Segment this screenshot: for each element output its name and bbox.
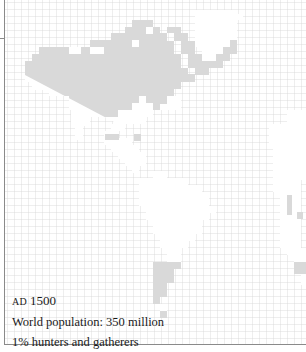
africa-shaded-cell xyxy=(294,262,306,274)
africa-shaded-cell xyxy=(287,195,292,215)
africa-shaded-cell xyxy=(297,212,303,219)
inland-gap xyxy=(146,27,153,34)
legend-era: AD xyxy=(12,296,27,307)
legend-population: World population: 350 million xyxy=(12,312,164,332)
caribbean-shaded-cell xyxy=(105,134,119,140)
map-legend: AD 1500 World population: 350 million 1%… xyxy=(12,291,164,352)
legend-hunter-gatherer-share: 1% hunters and gatherers xyxy=(12,332,164,352)
legend-year: 1500 xyxy=(30,293,56,308)
caribbean-shaded-cell xyxy=(134,134,141,141)
hudson-bay-gap xyxy=(69,47,81,54)
inland-gap xyxy=(90,47,104,54)
inland-gap xyxy=(132,40,139,47)
legend-date: AD 1500 xyxy=(12,291,164,312)
